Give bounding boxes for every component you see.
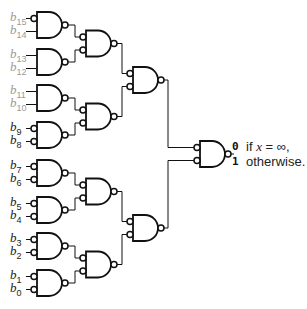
nand-gate-level3	[127, 215, 164, 241]
inversion-bubble-icon	[31, 250, 37, 256]
output-value-one: 1	[232, 155, 239, 168]
inversion-bubble-icon	[31, 287, 37, 293]
inversion-bubble-icon	[31, 201, 37, 207]
nand-gate-level2	[80, 31, 117, 57]
condition-prefix: if	[246, 139, 256, 154]
nand-gate-level1	[31, 122, 68, 148]
inversion-bubble-icon	[80, 107, 86, 113]
inversion-bubble-icon	[127, 84, 133, 90]
output-condition-infinity: if x = ∞,	[246, 139, 290, 155]
nand-gate-level3	[127, 67, 164, 93]
inversion-bubble-icon	[80, 182, 86, 188]
inversion-bubble-icon	[194, 158, 200, 164]
inversion-bubble-icon	[31, 237, 37, 243]
nand-gate-level2	[80, 179, 117, 205]
nand-gate-level2	[80, 104, 117, 130]
input-label-b4: b4	[10, 208, 22, 227]
condition-suffix: = ∞,	[262, 139, 290, 154]
nand-gate-level1	[37, 49, 68, 75]
nand-gate-level1	[31, 12, 68, 38]
inversion-bubble-icon	[127, 219, 133, 225]
nand-gate-level1	[31, 270, 68, 296]
inversion-bubble-icon	[31, 177, 37, 183]
input-label-b8: b8	[10, 133, 22, 152]
inversion-bubble-icon	[80, 195, 86, 201]
inversion-bubble-icon	[31, 126, 37, 132]
input-label-b12: b12	[10, 60, 27, 79]
output-value-zero: 0	[232, 140, 239, 153]
inversion-bubble-icon	[80, 255, 86, 261]
inversion-bubble-icon	[80, 47, 86, 53]
inversion-bubble-icon	[127, 71, 133, 77]
inversion-bubble-icon	[31, 139, 37, 145]
nand-gate-output	[194, 141, 231, 167]
inversion-bubble-icon	[80, 34, 86, 40]
inversion-bubble-icon	[31, 214, 37, 220]
inversion-bubble-icon	[80, 120, 86, 126]
output-condition-otherwise: otherwise.	[246, 154, 305, 169]
nand-gate-level1	[31, 233, 68, 259]
inversion-bubble-icon	[31, 16, 37, 22]
inversion-bubble-icon	[31, 164, 37, 170]
input-label-b10: b10	[10, 96, 27, 115]
input-label-b6: b6	[10, 171, 22, 190]
nand-gate-level1	[31, 160, 68, 186]
nand-gate-level1	[37, 85, 68, 111]
inversion-bubble-icon	[127, 232, 133, 238]
input-label-b0: b0	[10, 281, 22, 300]
input-label-b14: b14	[10, 23, 27, 42]
inversion-bubble-icon	[194, 145, 200, 151]
inversion-bubble-icon	[80, 268, 86, 274]
input-label-b2: b2	[10, 244, 22, 263]
nand-gate-level1	[31, 197, 68, 223]
nand-gate-level2	[80, 252, 117, 278]
inversion-bubble-icon	[31, 274, 37, 280]
